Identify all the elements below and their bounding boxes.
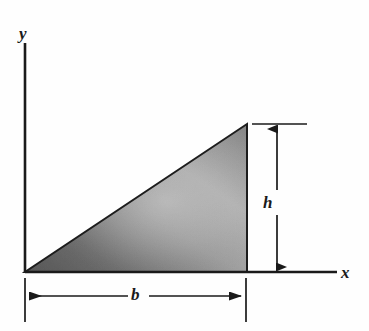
- x-axis-label: x: [341, 264, 350, 281]
- shaded-triangle: [20, 118, 255, 278]
- height-dimension-label: h: [263, 194, 272, 211]
- figure-canvas: [0, 0, 369, 331]
- geometry-figure: y x h b: [0, 0, 369, 331]
- base-dimension-label: b: [131, 286, 140, 303]
- height-dimension: [252, 124, 307, 267]
- y-axis-label: y: [19, 25, 27, 42]
